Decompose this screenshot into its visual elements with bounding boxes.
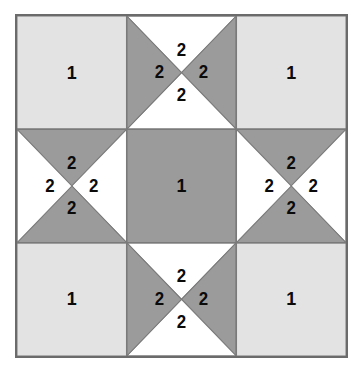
- hourglass-unit-middle-right-label-top: 2: [286, 153, 295, 173]
- hourglass-unit-middle-right-label-bottom: 2: [286, 198, 295, 218]
- hourglass-unit-bottom-center-label-left: 2: [155, 289, 164, 309]
- hourglass-unit-middle-right-label-right: 2: [308, 175, 317, 195]
- center-square-label: 1: [177, 176, 187, 196]
- corner-square-bottom-right-label: 1: [286, 289, 296, 309]
- quilt-block-border: 122221222212222122221: [15, 14, 348, 358]
- quilt-block-canvas: 122221222212222122221: [17, 16, 346, 356]
- hourglass-unit-top-center-label-left: 2: [155, 62, 164, 82]
- hourglass-unit-bottom-center-label-top: 2: [177, 266, 186, 286]
- quilt-block-figure: 122221222212222122221: [0, 0, 363, 380]
- hourglass-unit-middle-right-label-left: 2: [265, 175, 274, 195]
- hourglass-unit-middle-left-label-left: 2: [45, 175, 54, 195]
- corner-square-top-left-label: 1: [67, 62, 77, 82]
- hourglass-unit-bottom-center-label-right: 2: [199, 289, 208, 309]
- hourglass-unit-bottom-center-label-bottom: 2: [177, 311, 186, 331]
- corner-square-top-right-label: 1: [286, 62, 296, 82]
- hourglass-unit-middle-left-label-right: 2: [89, 175, 98, 195]
- hourglass-unit-top-center-label-top: 2: [177, 39, 186, 59]
- corner-square-bottom-left-label: 1: [67, 289, 77, 309]
- hourglass-unit-middle-left-label-bottom: 2: [67, 198, 76, 218]
- hourglass-unit-middle-left-label-top: 2: [67, 153, 76, 173]
- hourglass-unit-top-center-label-bottom: 2: [177, 85, 186, 105]
- hourglass-unit-top-center-label-right: 2: [199, 62, 208, 82]
